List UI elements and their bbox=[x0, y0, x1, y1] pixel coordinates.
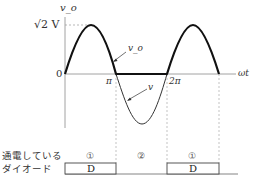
source-voltage-v-curve bbox=[116, 74, 167, 124]
v-curve-label: v bbox=[148, 83, 153, 92]
peak-label: √2 V bbox=[34, 19, 59, 30]
x-tick-pi: π bbox=[106, 77, 112, 86]
conduction-row-label-line2: ダイオード bbox=[2, 164, 52, 174]
x-tick-2pi: 2π bbox=[169, 77, 181, 86]
vo-curve-label: v_o bbox=[128, 44, 143, 53]
conduction-row-label-line1: 通電している bbox=[2, 151, 62, 161]
mode-label-1: ① bbox=[86, 152, 94, 161]
mode-label-2: ② bbox=[137, 152, 145, 161]
diode-label-3: D bbox=[189, 164, 197, 174]
x-axis-label: ωt bbox=[238, 69, 249, 78]
v-leader-line bbox=[128, 89, 147, 100]
y-axis-label: v_o bbox=[60, 3, 77, 13]
origin-label: 0 bbox=[56, 69, 62, 79]
mode-label-3: ① bbox=[188, 152, 196, 161]
y-axis-label-text: v_o bbox=[60, 2, 77, 13]
diode-label-1: D bbox=[87, 164, 95, 174]
